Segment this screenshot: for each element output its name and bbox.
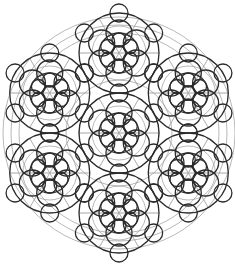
gray-guide-layer — [3, 17, 235, 249]
sacred-geometry-diagram — [0, 0, 235, 271]
